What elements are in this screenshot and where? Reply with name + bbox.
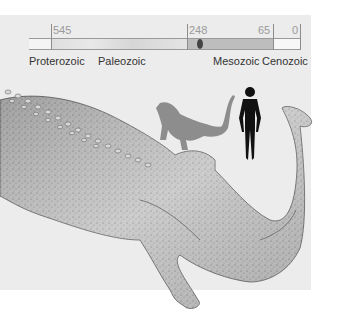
amphibian-illustration [0, 0, 358, 321]
human-silhouette-icon [239, 87, 261, 160]
amphibian-body [0, 96, 312, 308]
creature-silhouette-icon [156, 95, 235, 150]
